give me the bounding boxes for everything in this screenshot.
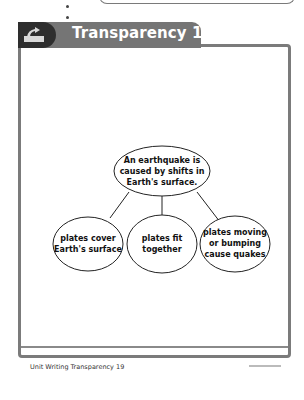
- main-idea-line: caused by shifts in: [112, 166, 212, 177]
- copyright-notice: [249, 365, 281, 367]
- detail-node-3: plates moving or bumping cause quakes: [197, 227, 273, 260]
- detail-line: or bumping: [197, 238, 273, 249]
- detail-node-2: plates fit together: [124, 233, 200, 255]
- footer-divider: [21, 346, 288, 348]
- detail-line: together: [124, 244, 200, 255]
- detail-line: plates moving: [197, 227, 273, 238]
- footer-label: Unit Writing Transparency 19: [30, 363, 124, 371]
- main-idea-line: Earth's surface.: [112, 177, 212, 188]
- detail-node-1: plates cover Earth's surface: [50, 233, 126, 255]
- detail-line: cause quakes: [197, 249, 273, 260]
- concept-map-lines: [0, 0, 304, 400]
- detail-line: plates cover: [50, 233, 126, 244]
- main-idea-line: An earthquake is: [112, 155, 212, 166]
- main-idea-node: An earthquake is caused by shifts in Ear…: [112, 155, 212, 188]
- detail-line: plates fit: [124, 233, 200, 244]
- detail-line: Earth's surface: [50, 244, 126, 255]
